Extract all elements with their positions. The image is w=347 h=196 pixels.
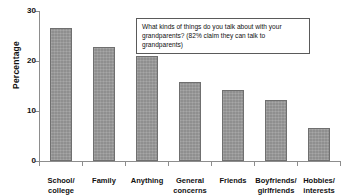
x-label-line-1: Hobbies/: [299, 176, 339, 186]
x-tick-7: [340, 162, 341, 166]
x-label-line-2: concerns: [170, 186, 210, 196]
x-tick-3: [168, 162, 169, 166]
x-label-school-college: School/ college: [41, 176, 81, 195]
bar-anything: [136, 56, 158, 161]
x-axis-line: [39, 161, 341, 162]
bar-friends: [222, 90, 244, 162]
x-tick-0: [39, 162, 40, 166]
annotation-line-2: grandparents? (82% claim they can talk t…: [142, 31, 304, 49]
y-tick-label-0: 0: [32, 156, 36, 165]
bar-family: [93, 47, 115, 161]
x-label-line-2: college: [41, 186, 81, 196]
x-label-general-concerns: General concerns: [170, 176, 210, 195]
x-tick-4: [211, 162, 212, 166]
x-tick-6: [297, 162, 298, 166]
x-label-line-1: General: [170, 176, 210, 186]
annotation-line-1: What kinds of things do you talk about w…: [142, 22, 304, 31]
x-label-line-1: Boyfriends/: [254, 176, 298, 186]
y-tick-label-30: 30: [27, 6, 36, 15]
x-label-family: Family: [84, 176, 124, 186]
bar-hobbies-interests: [308, 128, 330, 162]
x-label-friends: Friends: [213, 176, 253, 186]
x-tick-2: [125, 162, 126, 166]
x-tick-5: [254, 162, 255, 166]
y-axis-line: [39, 11, 40, 162]
bar-chart: Percentage 0 10 20 30: [0, 0, 347, 196]
bar-general-concerns: [179, 82, 201, 161]
x-label-line-2: interests: [299, 186, 339, 196]
x-label-line-1: Anything: [127, 176, 167, 186]
x-label-line-2: girlfriends: [254, 186, 298, 196]
x-label-line-1: Friends: [213, 176, 253, 186]
x-label-boyfriends-girlfriends: Boyfriends/ girlfriends: [254, 176, 298, 195]
x-tick-1: [82, 162, 83, 166]
y-axis-title: Percentage: [11, 15, 21, 115]
x-label-line-1: School/: [41, 176, 81, 186]
x-label-hobbies-interests: Hobbies/ interests: [299, 176, 339, 195]
bar-school-college: [50, 28, 72, 162]
bar-boyfriends-girlfriends: [265, 100, 287, 161]
annotation-textbox: What kinds of things do you talk about w…: [136, 18, 310, 54]
x-label-anything: Anything: [127, 176, 167, 186]
y-tick-label-20: 20: [27, 56, 36, 65]
y-tick-label-10: 10: [27, 106, 36, 115]
x-label-line-1: Family: [84, 176, 124, 186]
